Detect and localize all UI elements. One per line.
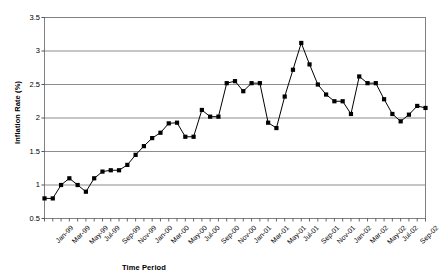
gridlines [45,18,426,219]
data-point-marker [117,168,121,172]
data-point-marker [291,68,295,72]
data-point-marker [307,62,311,66]
data-point-marker [274,126,278,130]
data-point-marker [109,168,113,172]
data-point-marker [332,99,336,103]
data-point-marker [249,81,253,85]
data-point-marker [167,121,171,125]
data-point-marker [183,135,187,139]
data-point-marker [423,106,427,110]
data-point-marker [316,82,320,86]
data-point-marker [67,176,71,180]
data-point-marker [241,89,245,93]
data-point-marker [258,81,262,85]
series-markers-inflation-rate [42,41,427,201]
data-point-marker [191,135,195,139]
data-point-marker [365,81,369,85]
data-point-marker [100,170,104,174]
data-point-marker [42,196,46,200]
data-point-marker [399,119,403,123]
data-point-marker [125,163,129,167]
data-point-marker [150,136,154,140]
series-line-inflation-rate [45,43,426,198]
data-point-marker [266,121,270,125]
data-point-marker [415,104,419,108]
data-point-marker [374,81,378,85]
data-point-marker [390,112,394,116]
data-point-marker [341,99,345,103]
data-point-marker [233,79,237,83]
data-point-marker [225,81,229,85]
data-point-marker [158,131,162,135]
data-point-marker [142,144,146,148]
data-point-marker [134,153,138,157]
data-point-marker [208,115,212,119]
data-point-marker [357,74,361,78]
data-point-marker [200,108,204,112]
data-point-marker [382,97,386,101]
data-point-marker [299,41,303,45]
data-point-marker [324,92,328,96]
data-point-marker [92,176,96,180]
data-point-marker [283,94,287,98]
data-point-marker [216,115,220,119]
data-point-marker [59,183,63,187]
data-point-marker [349,112,353,116]
data-point-marker [407,113,411,117]
data-point-marker [76,183,80,187]
data-point-marker [175,121,179,125]
data-point-marker [51,196,55,200]
data-point-marker [84,190,88,194]
